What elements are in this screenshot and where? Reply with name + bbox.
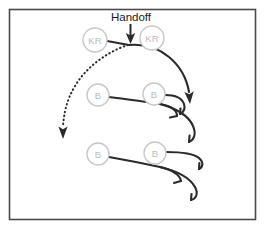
player-b-bottom-left-label: B xyxy=(95,149,102,160)
handoff-label: Handoff xyxy=(111,11,152,23)
diagram-frame xyxy=(10,10,256,220)
blocker-route-4b-hook xyxy=(191,194,192,200)
play-diagram-canvas: KR KR B B B B Handoff xyxy=(0,0,265,229)
player-b-mid-left-label: B xyxy=(95,90,102,101)
player-b-mid-right-label: B xyxy=(151,89,158,100)
blocker-route-2b-hook xyxy=(189,136,190,143)
play-diagram: KR KR B B B B Handoff xyxy=(0,0,265,229)
player-kr-left-label: KR xyxy=(88,35,102,46)
blocker-route-1-hook xyxy=(170,116,177,118)
player-b-bottom-right-label: B xyxy=(152,148,159,159)
player-kr-right-label: KR xyxy=(145,33,159,44)
